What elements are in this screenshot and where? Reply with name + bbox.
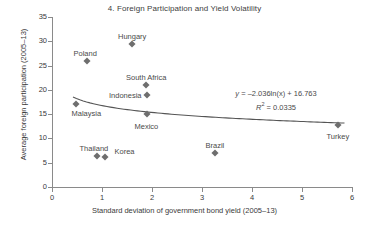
chart-figure: 4. Foreign Participation and Yield Volat… bbox=[0, 0, 369, 227]
x-tick-label: 1 bbox=[92, 193, 112, 202]
y-tick-label: 5 bbox=[25, 158, 47, 167]
x-tick-mark bbox=[252, 188, 253, 192]
y-tick-label: 35 bbox=[25, 12, 47, 21]
y-tick-label: 30 bbox=[25, 36, 47, 45]
data-point-label: Mexico bbox=[135, 122, 159, 131]
data-point-label: Hungary bbox=[118, 32, 146, 41]
data-point-label: Thailand bbox=[80, 144, 109, 153]
regression-annotation: y = –2.036ln(x) + 16.763 R2 = 0.0335 bbox=[218, 89, 334, 113]
data-point-label: Indonesia bbox=[109, 91, 142, 100]
y-tick-label: 15 bbox=[25, 109, 47, 118]
x-tick-label: 6 bbox=[342, 193, 362, 202]
x-tick-mark bbox=[202, 188, 203, 192]
x-tick-label: 3 bbox=[192, 193, 212, 202]
y-tick-label: 0 bbox=[25, 182, 47, 191]
r-squared-value: = 0.0335 bbox=[264, 103, 296, 112]
y-tick-label: 20 bbox=[25, 85, 47, 94]
chart-title: 4. Foreign Participation and Yield Volat… bbox=[0, 4, 369, 13]
data-point-label: Korea bbox=[115, 147, 135, 156]
equation-body: = –2.036ln(x) + 16.763 bbox=[239, 89, 317, 98]
y-tick-label: 10 bbox=[25, 133, 47, 142]
y-tick-label: 25 bbox=[25, 61, 47, 70]
data-point-label: Brazil bbox=[206, 141, 225, 150]
x-tick-mark bbox=[352, 188, 353, 192]
regression-equation: y = –2.036ln(x) + 16.763 bbox=[218, 89, 334, 99]
x-tick-mark bbox=[102, 188, 103, 192]
x-tick-label: 0 bbox=[42, 193, 62, 202]
x-tick-label: 4 bbox=[242, 193, 262, 202]
y-axis-label: Average foreign participation (2005–13) bbox=[19, 10, 28, 180]
x-tick-mark bbox=[52, 188, 53, 192]
data-point-label: South Africa bbox=[126, 73, 166, 82]
x-tick-label: 5 bbox=[292, 193, 312, 202]
x-tick-mark bbox=[302, 188, 303, 192]
data-point-label: Malaysia bbox=[72, 109, 102, 118]
r-squared: R2 = 0.0335 bbox=[218, 99, 334, 113]
data-point-label: Turkey bbox=[327, 132, 350, 141]
data-point-label: Poland bbox=[74, 49, 97, 58]
x-tick-label: 2 bbox=[142, 193, 162, 202]
x-axis-label: Standard deviation of government bond yi… bbox=[0, 206, 369, 215]
x-tick-mark bbox=[152, 188, 153, 192]
